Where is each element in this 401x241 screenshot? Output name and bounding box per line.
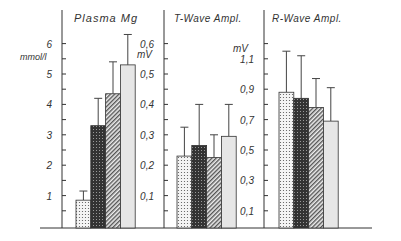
bar-dark-crosshatch bbox=[192, 145, 207, 228]
bar-dotted bbox=[279, 92, 294, 228]
y-tick-label: 0,2 bbox=[140, 160, 154, 171]
panel-title-r-wave: R-Wave Ampl. bbox=[272, 13, 342, 24]
bar-light-gray bbox=[323, 121, 338, 228]
bar-chart: 1234560,10,20,30,40,50,60,10,30,50,70,91… bbox=[0, 0, 401, 241]
bar-light-gray bbox=[221, 136, 236, 228]
y-tick-label: 2 bbox=[45, 160, 52, 171]
y-tick-label: 0,6 bbox=[140, 39, 154, 50]
bar-dark-crosshatch bbox=[91, 126, 106, 228]
y-tick-label: 0,3 bbox=[240, 175, 254, 186]
y-tick-label: 0,4 bbox=[140, 99, 154, 110]
unit-label-mmol: mmol/l bbox=[20, 52, 47, 62]
bar-diagonal-hatch bbox=[309, 107, 324, 228]
y-tick-label: 3 bbox=[46, 130, 52, 141]
y-tick-label: 0,9 bbox=[240, 84, 254, 95]
panel-title-plasma-mg: Plasma Mg bbox=[74, 12, 138, 24]
y-tick-label: 0,1 bbox=[140, 191, 154, 202]
bar-dotted bbox=[177, 156, 192, 228]
bar-dotted bbox=[76, 200, 91, 228]
chart-panel-2: 0,10,20,30,40,50,6 bbox=[140, 10, 236, 228]
bar-dark-crosshatch bbox=[294, 98, 309, 228]
bar-light-gray bbox=[120, 65, 135, 228]
y-tick-label: 0,1 bbox=[240, 206, 254, 217]
y-tick-label: 5 bbox=[46, 69, 52, 80]
chart-panel-3: 0,10,30,50,70,91,1 bbox=[240, 10, 338, 228]
chart-panel-1: 123456 bbox=[45, 10, 135, 228]
y-tick-label: 1 bbox=[46, 191, 52, 202]
y-tick-label: 1,1 bbox=[240, 54, 254, 65]
y-tick-label: 6 bbox=[46, 39, 52, 50]
bar-diagonal-hatch bbox=[106, 94, 121, 228]
unit-label-mv-r: mV bbox=[233, 43, 249, 54]
y-tick-label: 0,5 bbox=[140, 69, 154, 80]
unit-label-mv-t: mV bbox=[137, 49, 153, 60]
y-tick-label: 0,3 bbox=[140, 130, 154, 141]
panel-title-t-wave: T-Wave Ampl. bbox=[174, 13, 242, 24]
y-tick-label: 4 bbox=[46, 99, 52, 110]
bar-diagonal-hatch bbox=[207, 158, 222, 228]
y-tick-label: 0,7 bbox=[240, 115, 254, 126]
y-tick-label: 0,5 bbox=[240, 145, 254, 156]
